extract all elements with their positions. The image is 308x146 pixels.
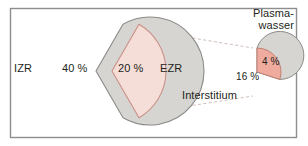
label-plasmawasser-value: 4 % — [262, 57, 280, 68]
label-izr: IZR — [14, 63, 32, 75]
label-ezr-value: 20 % — [118, 63, 143, 75]
label-interstitium: Interstitium — [182, 90, 237, 102]
label-izr-value: 40 % — [62, 63, 87, 75]
label-ezr: EZR — [160, 63, 182, 75]
figure-body-water-compartments: IZR 40 % 20 % EZR Plasma- wasser 4 % Int… — [0, 0, 308, 146]
label-interstitium-value: 16 % — [236, 72, 259, 83]
label-plasmawasser: Plasma- wasser — [253, 8, 294, 32]
